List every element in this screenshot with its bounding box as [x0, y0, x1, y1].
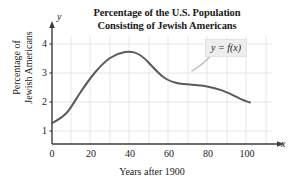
chart-figure: Percentage of the U.S. Population Consis… — [0, 0, 305, 184]
y-tick-label-4: 4 — [33, 38, 47, 49]
function-label-callout: y = f(x) — [205, 39, 247, 57]
title-line-2: Consisting of Jewish Americans — [62, 20, 272, 33]
y-tick-label-3: 3 — [33, 67, 47, 78]
axis-lines — [49, 21, 284, 147]
x-tick-label-20: 20 — [79, 148, 103, 159]
y-tick-label-1: 1 — [33, 125, 47, 136]
y-axis-label-line-1: Percentage of — [11, 8, 23, 128]
title-line-1: Percentage of the U.S. Population — [62, 7, 272, 20]
x-axis-variable: x — [281, 138, 285, 149]
x-tick-label-60: 60 — [157, 148, 181, 159]
y-axis-variable: y — [57, 11, 61, 22]
y-tick-label-2: 2 — [33, 96, 47, 107]
y-axis-label-line-2: Jewish Americans — [22, 8, 34, 128]
x-tick-label-0: 0 — [40, 148, 64, 159]
gridlines-horizontal — [52, 44, 272, 131]
x-tick-label-40: 40 — [118, 148, 142, 159]
data-curve — [52, 52, 250, 123]
x-axis-label: Years after 1900 — [52, 166, 252, 177]
x-tick-label-100: 100 — [235, 148, 259, 159]
x-tick-label-80: 80 — [196, 148, 220, 159]
page-title: Percentage of the U.S. Population Consis… — [62, 7, 272, 32]
y-axis-label: Percentage of Jewish Americans — [11, 8, 34, 128]
